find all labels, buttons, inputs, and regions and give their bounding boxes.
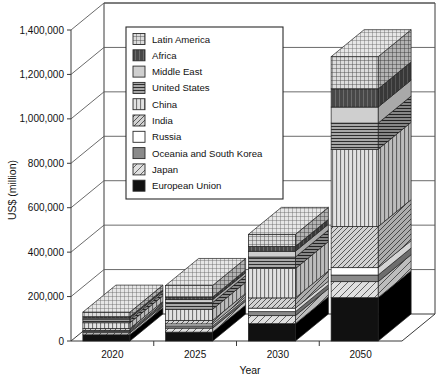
bar-segment-front bbox=[248, 246, 295, 251]
bar-segment-front bbox=[166, 328, 213, 332]
y-tick-label: 800,000 bbox=[28, 158, 65, 169]
legend-label: Russia bbox=[152, 131, 182, 142]
legend-swatch-solid-black bbox=[133, 180, 145, 191]
bar-segment-front bbox=[166, 320, 213, 324]
bar-segment-front bbox=[166, 303, 213, 310]
chart-canvas: 0200,000400,000600,000800,0001,000,0001,… bbox=[0, 0, 437, 381]
legend-label: Oceania and South Korea bbox=[152, 148, 263, 159]
legend-label: Middle East bbox=[152, 66, 202, 77]
bar-segment-front bbox=[331, 89, 378, 107]
bar-segment-front bbox=[166, 297, 213, 300]
legend-label: Japan bbox=[152, 164, 178, 175]
x-tick-label-2030: 2030 bbox=[267, 349, 290, 360]
bar-segment-front bbox=[166, 300, 213, 303]
bar-segment-front bbox=[248, 298, 295, 308]
bar-segment-front bbox=[166, 332, 213, 341]
y-tick-label: 0 bbox=[58, 336, 64, 347]
legend-swatch-vertical-dark bbox=[133, 50, 145, 61]
y-tick-label: 1,000,000 bbox=[20, 113, 65, 124]
bar-segment-front bbox=[166, 285, 213, 297]
legend-label: India bbox=[152, 115, 173, 126]
y-tick-label: 1,200,000 bbox=[20, 69, 65, 80]
y-tick-label: 1,400,000 bbox=[20, 25, 65, 36]
bar-segment-front bbox=[331, 123, 378, 149]
legend-swatch-grid-cross bbox=[133, 34, 145, 45]
legend-swatch-vertical bbox=[133, 99, 145, 110]
bar-segment-front bbox=[331, 227, 378, 268]
bar-segment-front bbox=[166, 309, 213, 320]
bar-2030 bbox=[248, 207, 328, 341]
legend-label: China bbox=[152, 99, 178, 110]
y-tick-label: 600,000 bbox=[28, 202, 65, 213]
bar-segment-front bbox=[248, 312, 295, 316]
y-tick-label: 400,000 bbox=[28, 247, 65, 258]
bar-segment-front bbox=[83, 335, 130, 341]
stacked-bar-chart: 0200,000400,000600,000800,0001,000,0001,… bbox=[0, 0, 437, 381]
x-axis-title: Year bbox=[239, 364, 261, 376]
legend: Latin AmericaAfricaMiddle EastUnited Sta… bbox=[126, 27, 283, 199]
legend-label: European Union bbox=[152, 180, 221, 191]
y-axis-title: US$ (million) bbox=[6, 160, 18, 220]
bar-segment-front bbox=[248, 257, 295, 269]
legend-swatch-diagonal-dark bbox=[133, 115, 145, 126]
x-tick-label-2020: 2020 bbox=[101, 349, 124, 360]
bar-segment-front bbox=[331, 149, 378, 226]
legend-swatch-light-gray bbox=[133, 66, 145, 77]
legend-label: United States bbox=[152, 82, 210, 93]
bar-segment-front bbox=[248, 251, 295, 257]
legend-swatch-horizontal bbox=[133, 82, 145, 93]
bar-segment-front bbox=[248, 269, 295, 298]
x-tick-label-2050: 2050 bbox=[350, 349, 373, 360]
bar-segment-front bbox=[83, 320, 130, 323]
bar-segment-front bbox=[331, 57, 378, 89]
bar-segment-front bbox=[248, 308, 295, 312]
legend-label: Africa bbox=[152, 50, 177, 61]
bar-segment-front bbox=[331, 275, 378, 282]
bar-segment-front bbox=[248, 316, 295, 324]
x-tick-label-2025: 2025 bbox=[184, 349, 207, 360]
bar-segment-front bbox=[248, 234, 295, 246]
legend-swatch-white bbox=[133, 131, 145, 142]
legend-box bbox=[126, 27, 283, 199]
legend-label: Latin America bbox=[152, 34, 211, 45]
bar-segment-front bbox=[331, 282, 378, 298]
bar-segment-front bbox=[331, 298, 378, 341]
bar-segment-front bbox=[83, 323, 130, 329]
bar-segment-front bbox=[331, 107, 378, 123]
bar-2050 bbox=[331, 30, 411, 341]
bar-segment-front bbox=[83, 312, 130, 317]
legend-swatch-diagonal-light bbox=[133, 164, 145, 175]
y-tick-label: 200,000 bbox=[28, 291, 65, 302]
bar-segment-front bbox=[331, 268, 378, 275]
bar-segment-front bbox=[248, 324, 295, 341]
legend-swatch-solid-gray bbox=[133, 148, 145, 159]
